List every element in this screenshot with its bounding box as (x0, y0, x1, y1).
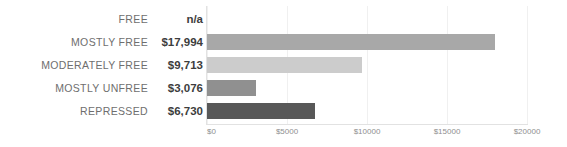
chart-rows: FREE n/a MOSTLY FREE $17,994 MODERATELY … (0, 0, 567, 124)
chart-row: REPRESSED $6,730 (0, 100, 567, 122)
chart-row: FREE n/a (0, 8, 567, 30)
category-label: REPRESSED (0, 105, 148, 117)
value-label: $9,713 (148, 59, 203, 71)
bar-repressed (207, 103, 315, 119)
chart-row: MOSTLY FREE $17,994 (0, 31, 567, 53)
value-label: $3,076 (148, 82, 203, 94)
bar-mostly-unfree (207, 80, 256, 96)
x-tick-label: $5000 (276, 127, 298, 136)
category-label: FREE (0, 13, 148, 25)
x-tick-label: $15000 (434, 127, 461, 136)
x-tick-label: $20000 (514, 127, 541, 136)
value-label: n/a (148, 13, 203, 25)
category-label: MOSTLY FREE (0, 36, 148, 48)
chart-row: MOSTLY UNFREE $3,076 (0, 77, 567, 99)
value-label: $17,994 (148, 36, 203, 48)
category-label: MODERATELY FREE (0, 59, 148, 71)
x-tick-label: $10000 (354, 127, 381, 136)
bar-chart: FREE n/a MOSTLY FREE $17,994 MODERATELY … (0, 0, 567, 147)
x-axis-ticks: $0 $5000 $10000 $15000 $20000 (0, 125, 567, 147)
chart-row: MODERATELY FREE $9,713 (0, 54, 567, 76)
x-tick-label: $0 (207, 127, 216, 136)
value-label: $6,730 (148, 105, 203, 117)
category-label: MOSTLY UNFREE (0, 82, 148, 94)
bar-mostly-free (207, 34, 495, 50)
bar-moderately-free (207, 57, 362, 73)
